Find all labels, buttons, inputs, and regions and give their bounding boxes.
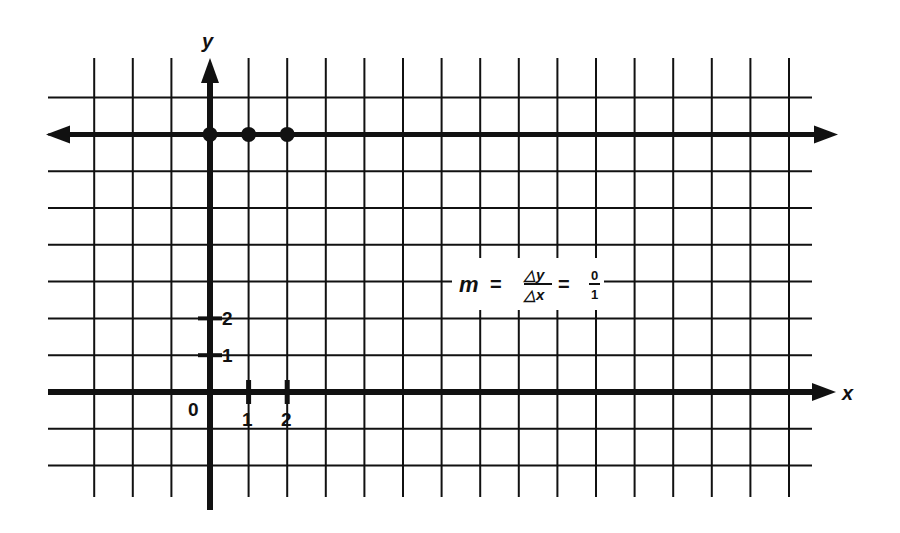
delta-x: △x xyxy=(522,286,545,303)
equals-sign-2: = xyxy=(558,273,570,295)
y-axis-arrow-icon xyxy=(201,58,219,83)
origin-label: 0 xyxy=(188,399,199,420)
line-right-arrow-icon xyxy=(814,125,838,143)
x-tick-label-2: 2 xyxy=(281,409,292,430)
numerator-value: 0 xyxy=(591,268,598,283)
coordinate-plane: y x 0 1 2 1 2 m = △y △x = 0 1 xyxy=(0,0,900,533)
line-left-arrow-icon xyxy=(46,125,70,143)
coordinate-plane-figure: y x 0 1 2 1 2 m = △y △x = 0 1 xyxy=(0,0,900,533)
y-tick-label-1: 1 xyxy=(222,345,233,366)
equals-sign: = xyxy=(490,273,502,295)
slope-symbol: m xyxy=(459,272,479,297)
x-axis-arrow-icon xyxy=(812,383,836,401)
y-axis-label: y xyxy=(201,30,214,52)
slope-formula: m = △y △x = 0 1 xyxy=(452,258,604,310)
x-tick-label-1: 1 xyxy=(242,409,253,430)
plotted-point-0 xyxy=(203,127,218,142)
x-axis-label: x xyxy=(841,382,854,404)
grid xyxy=(48,58,812,497)
plotted-point-1 xyxy=(241,127,256,142)
y-tick-label-2: 2 xyxy=(222,308,233,329)
delta-y: △y xyxy=(522,266,545,283)
plotted-point-2 xyxy=(280,127,295,142)
denominator-value: 1 xyxy=(591,287,598,302)
